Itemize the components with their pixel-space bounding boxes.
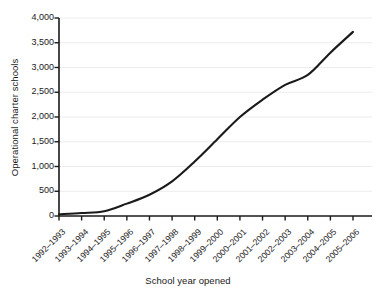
y-tick-label: 2,000 (8, 112, 54, 121)
y-tick-label: 3,000 (8, 63, 54, 72)
y-tick-label: 2,500 (8, 87, 54, 96)
y-tick-label: 1,000 (8, 162, 54, 171)
y-tick-label: 0 (8, 211, 54, 220)
y-tick-label: 3,500 (8, 38, 54, 47)
line-chart-plot (0, 0, 376, 294)
y-tick-label: 500 (8, 186, 54, 195)
x-axis-title: School year opened (0, 275, 376, 286)
y-tick-label: 1,500 (8, 137, 54, 146)
y-tick-label: 4,000 (8, 13, 54, 22)
chart-figure: Operational charter schools School year … (0, 0, 376, 294)
gridlines (59, 18, 372, 191)
y-axis-tick-labels: 05001,0001,5002,0002,5003,0003,5004,000 (4, 0, 54, 294)
data-series-line (59, 32, 353, 214)
